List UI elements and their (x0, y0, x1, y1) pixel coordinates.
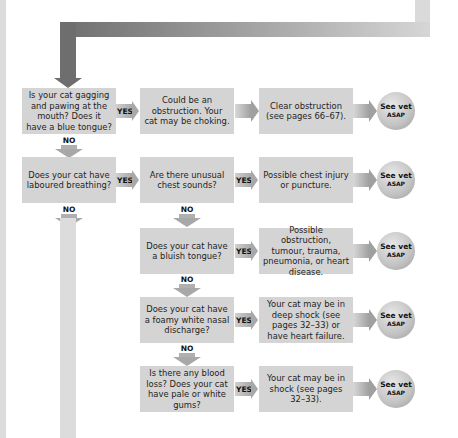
see-vet-label: See vet (380, 312, 412, 320)
no-arrow: NO (54, 136, 84, 158)
no-label: NO (181, 344, 194, 353)
yes-label: YES (235, 244, 251, 258)
see-vet-label: See vet (380, 381, 412, 389)
asap-label: ASAP (387, 320, 405, 328)
no-label: NO (63, 136, 76, 145)
result-shock: Your cat may be in shock (see pages 32–3… (259, 366, 353, 412)
question-blood-loss: Is there any blood loss? Does your cat h… (140, 366, 234, 412)
down-arrow-icon (54, 78, 82, 88)
no-arrow: NO (172, 344, 202, 366)
right-arrow-icon (353, 100, 377, 122)
yes-label: YES (235, 173, 251, 187)
see-vet-badge: See vetASAP (377, 232, 415, 270)
see-vet-badge: See vetASAP (377, 370, 415, 408)
yes-arrow: YES (235, 241, 258, 261)
question-laboured-breathing: Does your cat have laboured breathing? (22, 157, 116, 203)
result-obstruction: Could be an obstruction. Your cat may be… (140, 88, 234, 134)
see-vet-badge: See vetASAP (377, 301, 415, 339)
question-nasal-discharge: Does your cat have a foamy white nasal d… (140, 297, 234, 343)
asap-label: ASAP (387, 389, 405, 397)
right-arrow-icon (353, 240, 377, 262)
no-label: NO (181, 275, 194, 284)
right-arrow-icon (235, 100, 259, 122)
action-clear-obstruction: Clear obstruction (see pages 66–67). (259, 88, 353, 134)
asap-label: ASAP (387, 251, 405, 259)
question-chest-sounds: Are there unusual chest sounds? (140, 157, 234, 203)
result-possible-obstruction: Possible obstruction, tumour, trauma, pn… (259, 228, 353, 274)
incoming-flow-bar-vertical (60, 22, 76, 79)
question-bluish-tongue: Does your cat have a bluish tongue? (140, 228, 234, 274)
see-vet-label: See vet (380, 243, 412, 251)
see-vet-badge: See vetASAP (377, 161, 415, 199)
no-label: NO (181, 205, 194, 214)
question-gagging: Is your cat gagging and pawing at the mo… (22, 88, 116, 134)
yes-arrow: YES (235, 310, 258, 330)
result-chest-injury: Possible chest injury or puncture. (259, 157, 353, 203)
see-vet-badge: See vetASAP (377, 92, 415, 130)
yes-arrow: YES (116, 101, 139, 121)
asap-label: ASAP (387, 111, 405, 119)
right-arrow-icon (353, 169, 377, 191)
see-vet-label: See vet (380, 103, 412, 111)
page-edge-strip (0, 0, 6, 438)
yes-arrow: YES (235, 170, 258, 190)
right-arrow-icon (353, 309, 377, 331)
incoming-flow-bar-horizontal (60, 22, 430, 37)
result-deep-shock: Your cat may be in deep shock (see pages… (259, 297, 353, 343)
yes-arrow: YES (235, 379, 258, 399)
yes-label: YES (235, 313, 251, 327)
yes-label: YES (116, 173, 132, 187)
see-vet-label: See vet (380, 172, 412, 180)
yes-arrow: YES (116, 170, 139, 190)
yes-label: YES (235, 382, 251, 396)
yes-label: YES (116, 104, 132, 118)
no-label: NO (63, 205, 76, 214)
continuation-bar (60, 218, 76, 438)
no-arrow: NO (172, 275, 202, 297)
asap-label: ASAP (387, 180, 405, 188)
right-arrow-icon (353, 378, 377, 400)
no-arrow: NO (172, 205, 202, 227)
